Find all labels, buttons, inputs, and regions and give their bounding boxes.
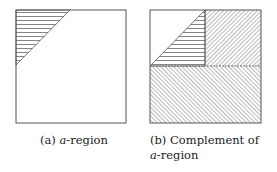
top-right-region	[205, 10, 261, 66]
a-region-triangle	[16, 10, 70, 65]
a-region-triangle-b	[150, 10, 205, 66]
caption-b-math: a	[150, 148, 157, 162]
figure-a	[16, 10, 126, 123]
caption-a: (a) a-region	[40, 133, 140, 148]
caption-b-text: -region	[157, 148, 199, 162]
figure-b	[150, 10, 261, 123]
caption-a-text: -region	[66, 133, 108, 147]
caption-b: (b) Complement of a-region	[150, 133, 270, 163]
bottom-half-region	[150, 66, 261, 123]
caption-b-label: (b)	[150, 133, 166, 147]
caption-b-prefix: Complement of	[170, 133, 259, 147]
caption-a-label: (a)	[40, 133, 56, 147]
